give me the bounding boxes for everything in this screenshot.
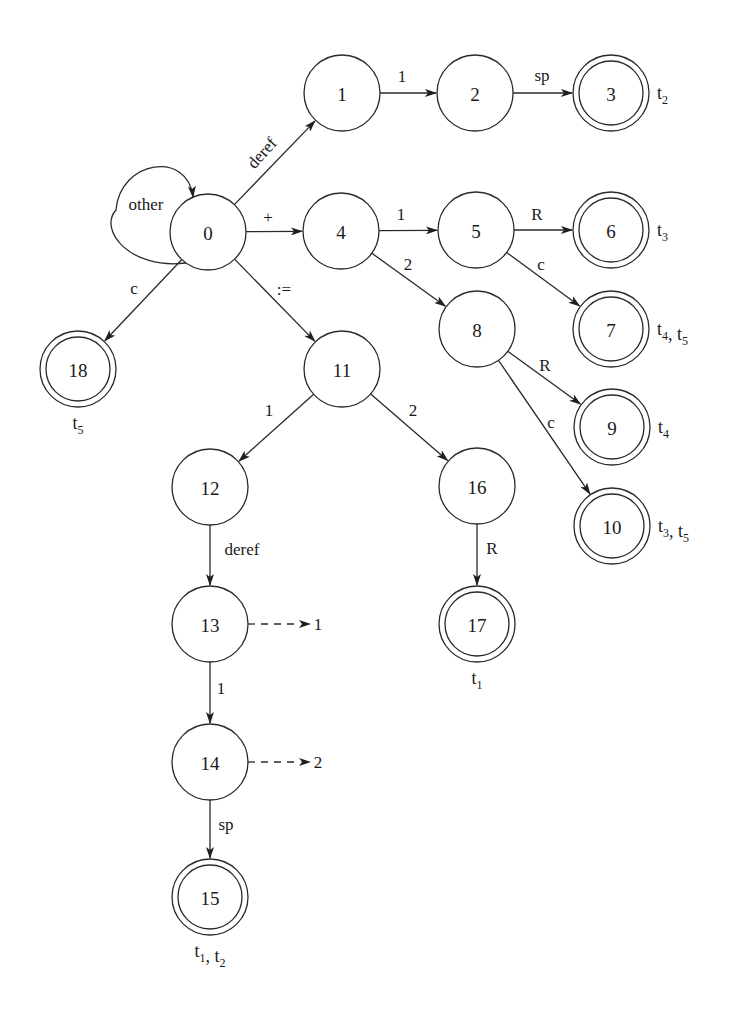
state-id: 1 — [337, 84, 347, 105]
token-annotation: t1 — [471, 668, 482, 692]
edge-0-to-11 — [235, 259, 315, 341]
automaton-diagram: 0123t2456t37t4, t589t410t3, t51112131415… — [0, 0, 737, 1013]
state-node-8: 8 — [439, 291, 515, 367]
state-node-10-accepting: 10t3, t5 — [574, 488, 689, 564]
edge-label: deref — [243, 133, 281, 172]
token-annotation: t4 — [658, 417, 669, 441]
edge-label: deref — [225, 540, 260, 559]
dashed-edge-target-label: 1 — [314, 615, 323, 634]
state-id: 4 — [336, 222, 346, 243]
state-id: 18 — [69, 360, 88, 381]
state-id: 7 — [606, 320, 616, 341]
state-node-4: 4 — [303, 193, 379, 269]
token-annotation: t3, t5 — [658, 516, 689, 545]
arrowhead-icon — [299, 620, 311, 628]
state-id: 5 — [471, 221, 481, 242]
token-annotation: t3 — [657, 220, 668, 244]
state-node-11: 11 — [304, 331, 380, 407]
edge-label: := — [277, 280, 291, 299]
token-annotation: t1, t2 — [194, 941, 225, 970]
edge-label: c — [130, 279, 138, 298]
state-node-16: 16 — [439, 448, 515, 524]
token-annotation: t4, t5 — [657, 319, 688, 348]
edge-0-to-18 — [105, 260, 182, 341]
edge-label: c — [547, 413, 555, 432]
state-id: 8 — [472, 320, 482, 341]
state-node-9-accepting: 9t4 — [574, 389, 669, 465]
edge-label: 1 — [217, 679, 226, 698]
state-id: 0 — [203, 223, 213, 244]
state-node-5: 5 — [438, 192, 514, 268]
state-id: 16 — [468, 477, 487, 498]
state-node-12: 12 — [172, 449, 248, 525]
self-loop-label: other — [129, 195, 164, 214]
state-id: 12 — [201, 478, 220, 499]
state-id: 17 — [468, 615, 487, 636]
edge-label: 2 — [409, 401, 418, 420]
edge-11-to-12 — [239, 394, 314, 461]
state-id: 3 — [606, 84, 616, 105]
state-node-0: 0 — [170, 194, 246, 270]
nodes-layer: 0123t2456t37t4, t589t410t3, t51112131415… — [40, 55, 689, 970]
edge-label: R — [486, 539, 498, 558]
edge-label: c — [537, 255, 545, 274]
state-id: 14 — [201, 753, 221, 774]
state-id: 2 — [470, 84, 480, 105]
edge-label: R — [539, 356, 551, 375]
edge-label: 1 — [265, 401, 274, 420]
state-node-17-accepting: 17t1 — [439, 586, 515, 692]
token-annotation: t5 — [72, 413, 83, 437]
state-node-13: 13 — [172, 586, 248, 662]
state-node-6-accepting: 6t3 — [573, 192, 668, 268]
edge-label: 2 — [404, 255, 413, 274]
state-node-1: 1 — [304, 55, 380, 131]
state-node-2: 2 — [437, 55, 513, 131]
arrowhead-icon — [299, 758, 311, 766]
state-node-3-accepting: 3t2 — [573, 55, 668, 131]
state-id: 13 — [201, 615, 220, 636]
dashed-edge-target-label: 2 — [314, 753, 323, 772]
edge-label: sp — [218, 815, 233, 834]
edge-label: sp — [534, 66, 549, 85]
state-node-15-accepting: 15t1, t2 — [172, 859, 248, 970]
state-id: 11 — [333, 360, 351, 381]
state-id: 9 — [607, 418, 617, 439]
state-node-7-accepting: 7t4, t5 — [573, 291, 688, 367]
state-id: 15 — [201, 888, 220, 909]
state-node-14: 14 — [172, 724, 248, 800]
edge-label: + — [263, 208, 273, 227]
state-id: 10 — [603, 517, 622, 538]
state-id: 6 — [606, 221, 616, 242]
edge-label: 1 — [398, 67, 407, 86]
token-annotation: t2 — [657, 83, 668, 107]
state-node-18-accepting: 18t5 — [40, 331, 116, 437]
edge-label: 1 — [397, 205, 406, 224]
edge-label: R — [531, 205, 543, 224]
labels-layer: deref1sp+12RcRcc:=12derefR1spother12 — [129, 66, 556, 834]
